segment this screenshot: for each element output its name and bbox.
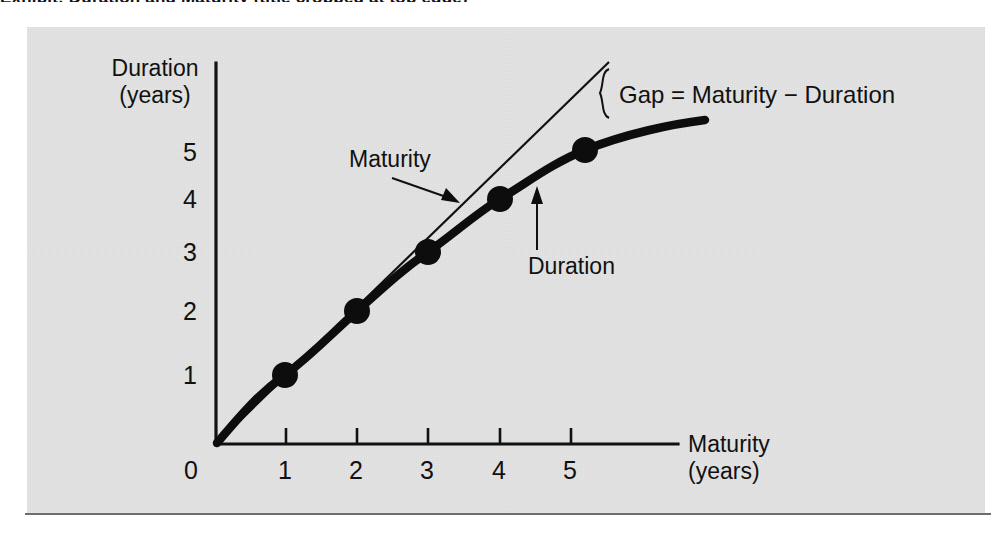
duration-curve — [217, 120, 705, 443]
gap-annotation-label: Gap = Maturity − Duration — [619, 81, 895, 109]
x-axis-title-line2: (years) — [688, 458, 770, 485]
x-tick-label-0: 0 — [184, 456, 198, 485]
y-tick-label-4: 4 — [183, 185, 197, 214]
x-tick-label-2: 2 — [349, 456, 363, 485]
y-tick-label-2: 2 — [183, 297, 197, 326]
y-tick-label-1: 1 — [183, 361, 197, 390]
data-point-3 — [415, 239, 441, 265]
data-point-5 — [572, 137, 598, 163]
figure-root: Exhibit: Duration and Maturity (title cr… — [0, 0, 1004, 539]
data-point-2 — [344, 298, 370, 324]
maturity-annotation-label: Maturity — [349, 146, 431, 173]
y-axis-title-line1: Duration — [105, 55, 205, 82]
x-tick-label-3: 3 — [420, 456, 434, 485]
x-tick-label-4: 4 — [492, 456, 506, 485]
y-tick-label-3: 3 — [183, 238, 197, 267]
y-axis-title: Duration (years) — [105, 55, 205, 109]
x-axis-title: Maturity (years) — [688, 431, 770, 485]
x-tick-label-5: 5 — [563, 456, 577, 485]
x-tick-label-1: 1 — [278, 456, 292, 485]
gap-brace-icon — [600, 69, 609, 118]
duration-annotation-arrow — [531, 186, 543, 250]
data-point-4 — [487, 186, 513, 212]
data-point-1 — [272, 362, 298, 388]
x-axis-ticks — [286, 428, 571, 444]
duration-annotation-label: Duration — [528, 253, 615, 280]
maturity-annotation-arrow — [392, 178, 460, 203]
x-axis-title-line1: Maturity — [688, 431, 770, 458]
y-tick-label-5: 5 — [183, 138, 197, 167]
y-axis-title-line2: (years) — [105, 82, 205, 109]
